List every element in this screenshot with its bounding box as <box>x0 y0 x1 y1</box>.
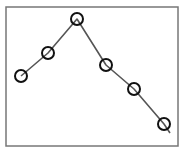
plot-frame <box>6 7 178 146</box>
series-markers <box>15 13 170 130</box>
series-line <box>21 19 170 133</box>
line-chart <box>0 0 182 149</box>
